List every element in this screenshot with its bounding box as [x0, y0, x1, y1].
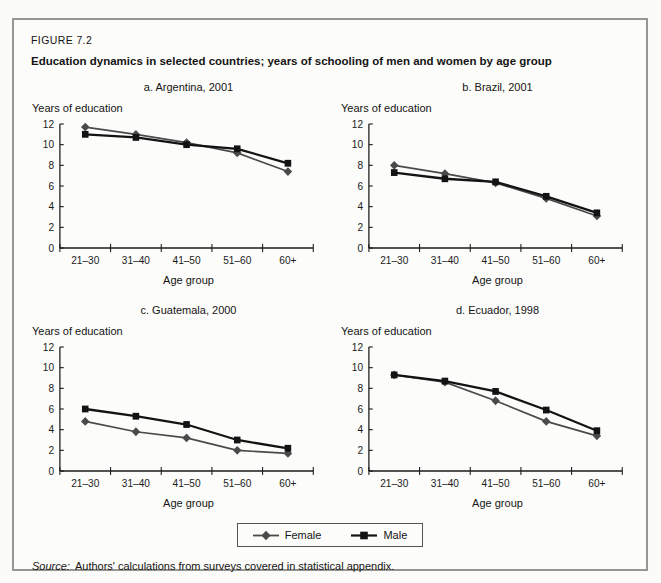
svg-text:4: 4 [48, 424, 54, 435]
source-note: Source:Authors' calculations from survey… [32, 560, 628, 572]
svg-text:10: 10 [43, 139, 55, 150]
svg-text:31–40: 31–40 [431, 255, 459, 266]
svg-text:6: 6 [357, 180, 363, 191]
figure-box: FIGURE 7.2 Education dynamics in selecte… [12, 18, 648, 571]
svg-text:4: 4 [357, 424, 363, 435]
svg-text:12: 12 [43, 341, 55, 352]
panel-title: d. Ecuador, 1998 [340, 304, 629, 316]
svg-text:60+: 60+ [588, 255, 605, 266]
svg-text:8: 8 [48, 383, 54, 394]
female-marker-icon [253, 530, 279, 541]
x-axis-label: Age group [340, 274, 629, 286]
svg-text:6: 6 [48, 180, 54, 191]
source-label: Source: [32, 560, 70, 572]
ecuador-line-chart: 02468101221–3031–4041–5051–6060+ [340, 339, 629, 497]
svg-text:31–40: 31–40 [122, 478, 150, 489]
svg-text:41–50: 41–50 [482, 255, 510, 266]
svg-text:2: 2 [357, 222, 363, 233]
chart-panel-ecuador: d. Ecuador, 1998 Years of education 0246… [340, 304, 629, 509]
svg-text:0: 0 [357, 242, 363, 253]
svg-text:60+: 60+ [279, 478, 296, 489]
chart-panel-guatemala: c. Guatemala, 2000 Years of education 02… [31, 304, 320, 509]
svg-text:51–60: 51–60 [223, 478, 251, 489]
brazil-line-chart: 02468101221–3031–4041–5051–6060+ [340, 116, 629, 274]
panel-title: c. Guatemala, 2000 [31, 304, 320, 316]
svg-text:10: 10 [352, 362, 364, 373]
x-axis-label: Age group [31, 497, 320, 509]
svg-text:60+: 60+ [279, 255, 296, 266]
legend-item-male: Male [351, 529, 407, 541]
svg-text:6: 6 [357, 403, 363, 414]
svg-text:0: 0 [48, 242, 54, 253]
svg-text:12: 12 [43, 118, 55, 129]
legend-item-female: Female [253, 529, 322, 541]
panel-title: a. Argentina, 2001 [31, 81, 320, 93]
figure-title: Education dynamics in selected countries… [31, 55, 629, 67]
svg-text:4: 4 [48, 201, 54, 212]
svg-text:31–40: 31–40 [122, 255, 150, 266]
svg-text:41–50: 41–50 [173, 255, 201, 266]
male-marker-icon [351, 530, 377, 541]
guatemala-line-chart: 02468101221–3031–4041–5051–6060+ [31, 339, 320, 497]
svg-text:6: 6 [48, 403, 54, 414]
svg-text:41–50: 41–50 [482, 478, 510, 489]
y-axis-label: Years of education [32, 325, 320, 337]
legend-label: Female [285, 529, 322, 541]
svg-text:60+: 60+ [588, 478, 605, 489]
svg-text:41–50: 41–50 [173, 478, 201, 489]
svg-text:21–30: 21–30 [71, 478, 99, 489]
chart-panel-brazil: b. Brazil, 2001 Years of education 02468… [340, 81, 629, 286]
x-axis-label: Age group [340, 497, 629, 509]
y-axis-label: Years of education [32, 102, 320, 114]
svg-text:2: 2 [48, 222, 54, 233]
svg-text:12: 12 [352, 118, 364, 129]
panel-title: b. Brazil, 2001 [340, 81, 629, 93]
svg-text:2: 2 [48, 445, 54, 456]
y-axis-label: Years of education [341, 325, 629, 337]
svg-text:21–30: 21–30 [380, 255, 408, 266]
svg-text:0: 0 [357, 465, 363, 476]
source-text: Authors' calculations from surveys cover… [75, 560, 394, 572]
svg-text:21–30: 21–30 [380, 478, 408, 489]
svg-text:4: 4 [357, 201, 363, 212]
svg-text:51–60: 51–60 [532, 255, 560, 266]
svg-text:21–30: 21–30 [71, 255, 99, 266]
svg-text:0: 0 [48, 465, 54, 476]
svg-text:51–60: 51–60 [532, 478, 560, 489]
y-axis-label: Years of education [341, 102, 629, 114]
svg-text:10: 10 [352, 139, 364, 150]
charts-grid: a. Argentina, 2001 Years of education 02… [31, 81, 629, 509]
figure-label: FIGURE 7.2 [31, 34, 629, 46]
legend: Female Male [237, 523, 424, 547]
chart-panel-argentina: a. Argentina, 2001 Years of education 02… [31, 81, 320, 286]
svg-text:10: 10 [43, 362, 55, 373]
svg-text:12: 12 [352, 341, 364, 352]
x-axis-label: Age group [31, 274, 320, 286]
svg-text:8: 8 [48, 160, 54, 171]
svg-text:2: 2 [357, 445, 363, 456]
svg-text:51–60: 51–60 [223, 255, 251, 266]
svg-text:31–40: 31–40 [431, 478, 459, 489]
svg-text:8: 8 [357, 160, 363, 171]
legend-label: Male [383, 529, 407, 541]
argentina-line-chart: 02468101221–3031–4041–5051–6060+ [31, 116, 320, 274]
svg-text:8: 8 [357, 383, 363, 394]
